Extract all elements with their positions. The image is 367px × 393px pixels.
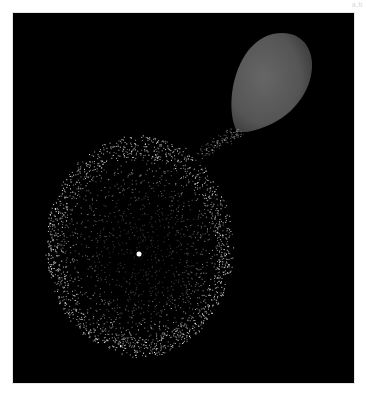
scene bbox=[13, 13, 354, 383]
image-frame bbox=[13, 13, 354, 383]
panel-label: a,b bbox=[352, 1, 363, 8]
balloon bbox=[231, 33, 312, 132]
particle-cloud bbox=[46, 129, 245, 359]
center-point bbox=[137, 252, 142, 257]
